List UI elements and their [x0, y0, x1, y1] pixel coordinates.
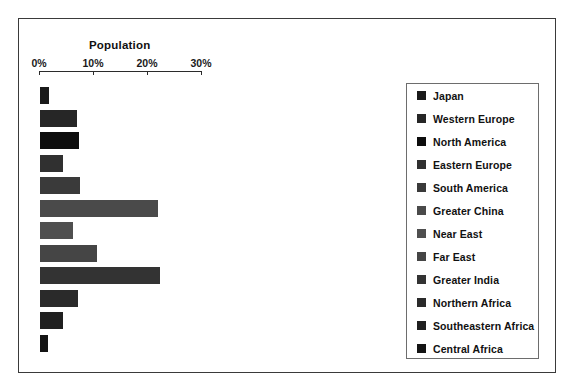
bar[interactable] [39, 86, 50, 105]
legend-label: Central Africa [433, 343, 503, 355]
legend-item[interactable]: Greater China [407, 199, 538, 222]
x-tick-label: 30% [190, 57, 211, 69]
legend-label: South America [433, 182, 508, 194]
x-tick-label: 20% [136, 57, 157, 69]
bar[interactable] [39, 289, 79, 308]
bar[interactable] [39, 221, 74, 240]
x-tick-mark [93, 71, 94, 75]
legend-item[interactable]: Southeastern Africa [407, 314, 538, 337]
x-tick-mark [39, 71, 40, 75]
chart-frame: Population 0%10%20%30% JapanWestern Euro… [18, 18, 556, 373]
legend-swatch-icon [417, 114, 426, 123]
bar[interactable] [39, 176, 81, 195]
x-tick-mark [147, 71, 148, 75]
legend-item[interactable]: Eastern Europe [407, 153, 538, 176]
plot-area: Population 0%10%20%30% JapanWestern Euro… [19, 19, 555, 372]
legend: JapanWestern EuropeNorth AmericaEastern … [406, 83, 539, 359]
legend-item[interactable]: Western Europe [407, 107, 538, 130]
legend-label: Far East [433, 251, 475, 263]
legend-swatch-icon [417, 252, 426, 261]
legend-item[interactable]: North America [407, 130, 538, 153]
legend-label: Eastern Europe [433, 159, 512, 171]
legend-swatch-icon [417, 275, 426, 284]
bar[interactable] [39, 334, 49, 353]
bar[interactable] [39, 244, 98, 263]
legend-swatch-icon [417, 229, 426, 238]
legend-label: Greater India [433, 274, 499, 286]
x-axis-tick-labels: 0%10%20%30% [39, 57, 239, 79]
legend-swatch-icon [417, 91, 426, 100]
legend-swatch-icon [417, 160, 426, 169]
legend-swatch-icon [417, 298, 426, 307]
legend-label: Greater China [433, 205, 504, 217]
x-tick-label: 0% [31, 57, 46, 69]
legend-item[interactable]: Near East [407, 222, 538, 245]
x-axis-line [39, 71, 201, 72]
legend-label: Northern Africa [433, 297, 511, 309]
bar[interactable] [39, 199, 159, 218]
x-tick-mark [201, 71, 202, 75]
legend-item[interactable]: Central Africa [407, 337, 538, 360]
legend-item[interactable]: Greater India [407, 268, 538, 291]
legend-label: Near East [433, 228, 482, 240]
legend-swatch-icon [417, 321, 426, 330]
legend-item[interactable]: Northern Africa [407, 291, 538, 314]
legend-label: Western Europe [433, 113, 515, 125]
legend-label: Southeastern Africa [433, 320, 534, 332]
bar[interactable] [39, 311, 64, 330]
bar[interactable] [39, 131, 80, 150]
legend-swatch-icon [417, 183, 426, 192]
legend-item[interactable]: South America [407, 176, 538, 199]
bar[interactable] [39, 266, 161, 285]
legend-swatch-icon [417, 206, 426, 215]
legend-swatch-icon [417, 344, 426, 353]
bar[interactable] [39, 154, 64, 173]
chart-title: Population [89, 39, 150, 51]
legend-item[interactable]: Japan [407, 84, 538, 107]
legend-swatch-icon [417, 137, 426, 146]
legend-label: Japan [433, 90, 464, 102]
bar[interactable] [39, 109, 78, 128]
x-tick-label: 10% [82, 57, 103, 69]
legend-label: North America [433, 136, 506, 148]
legend-item[interactable]: Far East [407, 245, 538, 268]
